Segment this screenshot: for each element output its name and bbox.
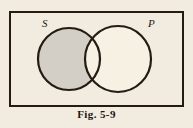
shaded-region-s-minus-p [9, 11, 184, 107]
set-s-label: S [42, 17, 48, 29]
figure-caption: Fig. 5-9 [0, 108, 193, 120]
figure-page: S P Fig. 5-9 [0, 0, 193, 128]
venn-diagram-canvas: S P [9, 11, 184, 107]
set-p-label: P [147, 17, 155, 29]
venn-diagram-frame: S P [9, 11, 184, 107]
